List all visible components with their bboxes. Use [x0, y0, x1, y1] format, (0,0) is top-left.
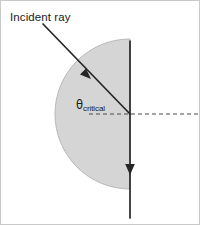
- critical-angle-figure: Incident ray θcritical: [0, 0, 200, 225]
- theta-subscript-label: critical: [83, 104, 105, 113]
- incident-ray-label: Incident ray: [10, 12, 71, 24]
- theta-symbol: θ: [76, 98, 83, 112]
- theta-critical-label: θcritical: [76, 100, 105, 113]
